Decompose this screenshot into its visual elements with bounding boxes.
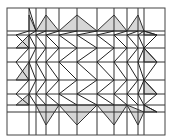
shaded-triangle [127,15,144,31]
zigzag-line [144,31,157,112]
shaded-triangle [36,15,59,31]
shaded-triangle [59,15,97,31]
shaded-triangle [97,15,127,31]
shaded-triangle [59,105,97,125]
shaded-triangle [97,105,127,125]
tessellation-diagram [0,0,178,140]
shaded-triangle [36,105,59,125]
shaded-triangle [127,105,144,125]
